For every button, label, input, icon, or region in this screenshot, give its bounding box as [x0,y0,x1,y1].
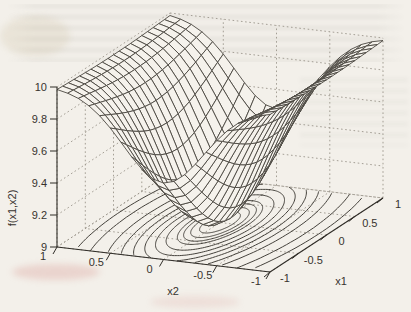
x1-tick-label: -1 [280,272,290,284]
x2-tick-label: -1 [251,275,261,287]
z-tick-label: 9.4 [32,177,47,189]
x1-tick-label: 0.5 [362,217,377,229]
mesh-surface [57,16,383,226]
mesh-contour-plot: 109.89.69.49.2910.50-0.5-1-1-0.500.51 f(… [0,0,411,312]
x1-tick-label: 0 [338,235,344,247]
x2-tick-label: 0.5 [89,256,104,268]
z-tick-label: 9.2 [32,209,47,221]
x1-axis-label: x1 [335,275,347,287]
x1-tick-label: -0.5 [304,254,323,266]
x2-tick-label: -0.5 [193,269,212,281]
x2-tick-label: 1 [40,250,46,262]
scanned-figure: 109.89.69.49.2910.50-0.5-1-1-0.500.51 f(… [0,0,411,312]
x2-axis-label: x2 [167,285,179,297]
z-tick-label: 10 [35,81,47,93]
x2-tick-label: 0 [146,263,152,275]
z-tick-label: 9.6 [32,145,47,157]
z-axis-label: f(x1,x2) [6,190,18,227]
z-tick-label: 9.8 [32,113,47,125]
x1-tick-label: 1 [395,198,401,210]
